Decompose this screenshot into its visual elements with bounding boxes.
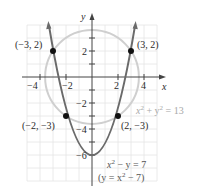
label-pt-m2-m3: (−2, −3) [22, 120, 55, 132]
point-3-2 [128, 48, 134, 54]
tick-x-4: 4 [141, 80, 146, 91]
point-m2-m3 [63, 113, 69, 119]
point-m3-2 [50, 48, 56, 54]
tick-y-2: 2 [82, 46, 87, 57]
parabola-alt-equation: (y = x2 − 7) [98, 171, 144, 184]
point-2-m3 [115, 113, 121, 119]
x-axis-arrow-icon [159, 75, 166, 80]
x-axis-label: x [161, 81, 167, 92]
y-axis-label: y [80, 11, 86, 22]
tick-x-m4: −4 [27, 80, 38, 91]
circle-equation: x2 + y2 = 13 [135, 104, 184, 116]
tick-x-2: 2 [114, 80, 119, 91]
graph-canvas: y x −4 −2 2 4 2 −2 −4 −6 (−3, 2) (3, 2) … [0, 0, 198, 192]
label-pt-m3-2: (−3, 2) [15, 39, 42, 51]
label-pt-2-m3: (2, −3) [121, 120, 148, 132]
tick-y-m2: −2 [76, 98, 87, 109]
label-pt-3-2: (3, 2) [137, 39, 159, 51]
y-axis-arrow-icon [90, 13, 95, 20]
tick-y-m6: −6 [76, 150, 87, 161]
tick-y-m4: −4 [76, 124, 87, 135]
tick-x-m2: −2 [62, 80, 73, 91]
